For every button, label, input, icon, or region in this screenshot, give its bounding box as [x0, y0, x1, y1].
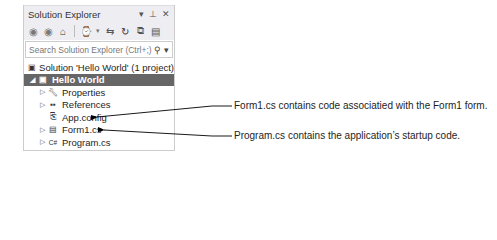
callout-program: Program.cs contains the application’s st…	[234, 130, 460, 141]
callout-form1: Form1.cs contains code associatied with …	[234, 100, 487, 111]
